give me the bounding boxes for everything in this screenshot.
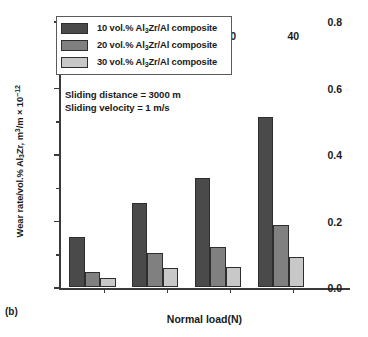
y-tick-label: 0.6 (327, 83, 342, 94)
x-tick-label: 40 (287, 31, 299, 42)
y-tick-minor (56, 188, 59, 190)
x-tick (293, 288, 295, 293)
annotation-line: Sliding velocity = 1 m/s (65, 101, 181, 114)
y-tick-label: 0.2 (327, 216, 342, 227)
y-tick-minor (56, 121, 59, 123)
y-axis-title: Wear rate/vol.% Al3Zr, m3/m × 10−12 (14, 31, 27, 291)
bar (289, 257, 305, 287)
y-tick-major (54, 154, 59, 156)
annotation-line: Sliding distance = 3000 m (65, 88, 181, 101)
y-tick-major (54, 221, 59, 223)
bar (226, 267, 242, 287)
legend: 10 vol.% Al3Zr/Al composite20 vol.% Al3Z… (56, 16, 232, 75)
legend-item[interactable]: 10 vol.% Al3Zr/Al composite (61, 20, 226, 37)
bar (210, 247, 226, 287)
bar (195, 178, 211, 286)
y-tick-label: 0.4 (327, 150, 342, 161)
legend-item[interactable]: 20 vol.% Al3Zr/Al composite (61, 37, 226, 54)
bar (100, 278, 116, 286)
bar (163, 268, 179, 286)
panel-label: (b) (5, 306, 18, 317)
y-tick-minor (56, 254, 59, 256)
x-axis-title: Normal load(N) (59, 313, 350, 325)
y-tick-major (54, 88, 59, 90)
bar (258, 117, 274, 287)
bar (273, 225, 289, 287)
legend-label: 10 vol.% Al3Zr/Al composite (97, 23, 217, 34)
legend-label: 20 vol.% Al3Zr/Al composite (97, 40, 217, 51)
legend-item[interactable]: 30 vol.% Al3Zr/Al composite (61, 54, 226, 71)
y-tick-major (54, 287, 59, 289)
bar (69, 237, 85, 287)
bar (147, 253, 163, 286)
legend-swatch (61, 40, 88, 51)
legend-swatch (61, 57, 88, 68)
legend-label: 30 vol.% Al3Zr/Al composite (97, 57, 217, 68)
bar (85, 272, 101, 287)
x-tick (104, 288, 106, 293)
x-tick (230, 288, 232, 293)
y-tick-label: 0.8 (327, 17, 342, 28)
bar (132, 203, 148, 286)
annotation-text-block: Sliding distance = 3000 mSliding velocit… (65, 88, 181, 114)
y-tick-label: 0.0 (327, 283, 342, 294)
figure-panel: Wear rate/vol.% Al3Zr, m3/m × 10−12 0.00… (0, 0, 368, 337)
legend-swatch (61, 23, 88, 34)
x-tick (167, 288, 169, 293)
